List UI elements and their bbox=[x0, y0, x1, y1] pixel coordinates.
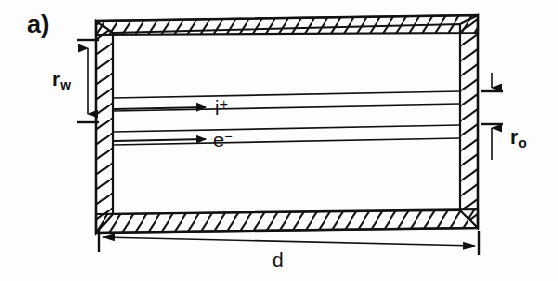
ion-beam-charge: + bbox=[219, 96, 227, 112]
tube-walls bbox=[96, 15, 478, 233]
tube-inner-edge bbox=[113, 24, 460, 214]
ion-beam-label: i+ bbox=[215, 98, 228, 118]
tube-outer-edge bbox=[96, 15, 478, 233]
ro-subscript: o bbox=[518, 135, 526, 151]
drift-tube-diagram bbox=[0, 0, 558, 281]
electron-beam-label: e− bbox=[213, 130, 233, 150]
dimension-label-ro: ro bbox=[510, 126, 527, 147]
left-wall-hatched bbox=[96, 21, 113, 233]
right-wall-hatched bbox=[460, 15, 478, 228]
dimension-ro bbox=[481, 73, 503, 160]
electron-beam-charge: − bbox=[224, 128, 232, 144]
panel-label-a: a) bbox=[27, 12, 49, 37]
beam-line-upper-outer bbox=[113, 91, 460, 98]
electron-beam-symbol: e bbox=[213, 129, 224, 151]
ro-symbol: r bbox=[510, 125, 518, 148]
dimension-label-d: d bbox=[272, 249, 284, 270]
dimension-label-rw: rw bbox=[52, 68, 71, 89]
beam-arrows bbox=[114, 107, 206, 141]
rw-subscript: w bbox=[60, 77, 71, 93]
electron-beam-arrow bbox=[114, 139, 206, 141]
beam-line-lower-inner bbox=[113, 125, 460, 132]
beam-envelope-lines bbox=[113, 91, 460, 145]
d-dimension-line bbox=[103, 237, 475, 246]
rw-symbol: r bbox=[52, 67, 60, 90]
figure-panel-a: a) rw ro d i+ e− bbox=[0, 0, 558, 281]
